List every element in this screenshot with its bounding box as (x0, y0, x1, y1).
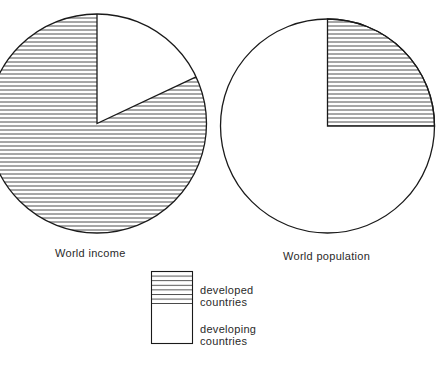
legend-developed-swatch (152, 272, 193, 304)
income-pie (0, 14, 207, 233)
legend-developed-line2: countries (200, 296, 253, 308)
income-chart-title: World income (55, 247, 126, 259)
legend-developed-label: developed countries (200, 284, 253, 308)
population-developed-slice (328, 19, 435, 126)
pie-charts (0, 0, 444, 366)
legend-developed-line1: developed (200, 284, 253, 296)
legend-developing-label: developing countries (200, 323, 256, 347)
legend-developing-line1: developing (200, 323, 256, 335)
legend-developing-line2: countries (200, 335, 256, 347)
legend-swatch (152, 272, 193, 344)
legend-developing-swatch (152, 304, 193, 344)
population-pie (221, 19, 435, 233)
population-chart-title: World population (283, 250, 370, 262)
